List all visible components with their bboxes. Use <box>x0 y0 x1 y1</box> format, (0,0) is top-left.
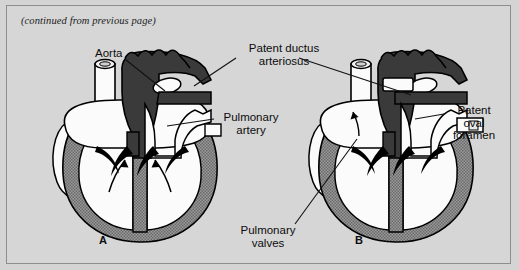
ductus-arteriosus-a <box>157 92 211 104</box>
label-pof-line-3: foramen <box>443 129 505 142</box>
label-aorta: Aorta <box>95 47 123 60</box>
label-pulmonary-artery: Pulmonary artery <box>215 111 287 136</box>
panel-letter-a: A <box>99 234 107 246</box>
label-pof-line-2: oval <box>443 117 505 130</box>
label-pof-line-1: Patent <box>443 104 505 117</box>
label-patent-ductus-arteriosus: Patent ductus arteriosus <box>236 42 332 67</box>
panel-a-heart <box>53 50 221 242</box>
label-pulmonary-valves-line-1: Pulmonary <box>229 224 307 237</box>
panel-b-heart <box>309 50 483 242</box>
label-pda-line-1: Patent ductus <box>236 42 332 55</box>
label-pda-line-2: arteriosus <box>236 55 332 68</box>
label-pulmonary-artery-line-1: Pulmonary <box>215 111 287 124</box>
panel-letter-b: B <box>355 234 363 246</box>
figure-frame: (continued from previous page) <box>6 5 511 264</box>
label-patent-oval-foramen: Patent oval foramen <box>443 104 505 142</box>
label-pulmonary-artery-line-2: artery <box>215 124 287 137</box>
label-pulmonary-valves: Pulmonary valves <box>229 224 307 249</box>
label-aorta-line-1: Aorta <box>95 47 123 60</box>
label-pulmonary-valves-line-2: valves <box>229 237 307 250</box>
patent-ductus-window-b <box>383 78 413 91</box>
